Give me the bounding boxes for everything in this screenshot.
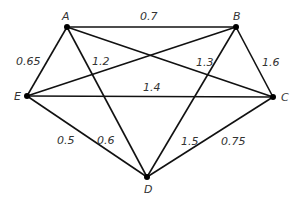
node-A — [64, 24, 70, 30]
edge-weight-label: 1.5 — [181, 135, 199, 148]
edge-weight-label: 1.4 — [143, 81, 161, 94]
edge-BD — [147, 27, 236, 177]
edge-weight-label: 0.5 — [57, 134, 75, 147]
node-label: E — [14, 90, 21, 103]
weighted-graph-diagram: 0.70.651.21.31.61.51.40.50.750.6ABCDE — [0, 0, 299, 203]
node-E — [24, 93, 30, 99]
node-C — [270, 94, 276, 100]
edge-EC — [27, 96, 273, 97]
edge-weight-label: 1.3 — [196, 56, 214, 69]
nodes — [24, 24, 276, 180]
node-D — [144, 174, 150, 180]
edge-CD — [147, 97, 273, 177]
edge-ED — [27, 96, 147, 177]
edge-weight-label: 0.75 — [221, 135, 246, 148]
node-label: B — [233, 10, 241, 23]
edge-weight-label: 0.7 — [140, 10, 158, 23]
edge-weight-label: 1.2 — [92, 55, 110, 68]
edge-weight-label: 0.65 — [16, 55, 41, 68]
node-label: C — [281, 91, 289, 104]
node-B — [233, 24, 239, 30]
edge-weight-label: 1.6 — [262, 56, 280, 69]
node-label: A — [61, 10, 70, 23]
node-label: D — [144, 183, 152, 196]
edge-weight-label: 0.6 — [97, 134, 115, 147]
edges — [27, 27, 273, 177]
